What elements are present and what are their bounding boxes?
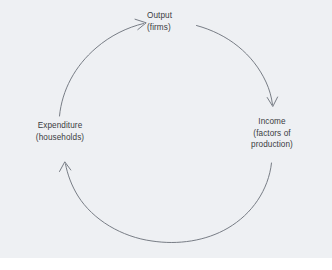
circular-flow-diagram-panel: Output (firms) Income (factors of produc… <box>0 0 332 258</box>
arrow-output-to-income <box>197 26 278 107</box>
node-label-output-line1: Output <box>147 10 207 22</box>
node-label-income-line2: (factors of <box>232 128 312 140</box>
arrowhead-into-expenditure <box>60 162 71 172</box>
node-label-expenditure-line1: Expenditure <box>16 120 104 132</box>
node-label-expenditure-line2: (households) <box>16 132 104 144</box>
node-label-income: Income (factors of production) <box>232 116 312 151</box>
node-label-income-line1: Income <box>232 116 312 128</box>
arrow-income-to-expenditure <box>60 162 272 243</box>
node-label-output: Output (firms) <box>125 10 207 33</box>
node-label-expenditure: Expenditure (households) <box>16 120 104 143</box>
node-label-income-line3: production) <box>232 139 312 151</box>
arrow-expenditure-to-output <box>60 19 147 116</box>
node-label-output-line2: (firms) <box>147 22 207 34</box>
